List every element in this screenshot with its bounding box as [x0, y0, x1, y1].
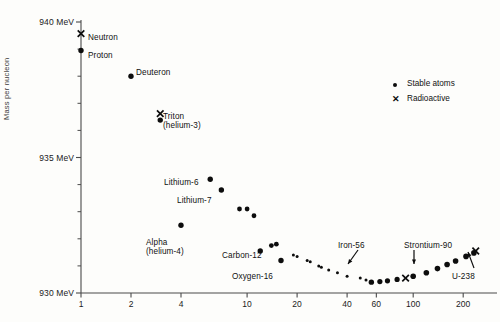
point-a27	[317, 264, 320, 267]
point-a35	[336, 271, 339, 274]
annotation-iron-56: Iron-56	[338, 241, 365, 251]
point-alpha	[178, 223, 183, 228]
point-a52	[365, 278, 368, 281]
point-a20	[296, 255, 299, 258]
point-a23	[306, 259, 309, 262]
point-a14	[269, 243, 274, 248]
annotation-proton: Proton	[88, 51, 113, 61]
point-a19	[292, 254, 295, 257]
point-a180	[453, 258, 459, 264]
y-axis-title: Mass per nucleon	[2, 58, 11, 120]
y-tick-label: 940 MeV	[18, 17, 74, 27]
x-tick-label: 60	[356, 299, 396, 309]
point-a232	[471, 250, 477, 256]
x-tick-label: 1	[61, 299, 101, 309]
point-lithium-7	[219, 187, 224, 192]
y-tick-label: 935 MeV	[18, 153, 74, 163]
point-a10	[245, 207, 250, 212]
x-tick-label: 2	[111, 299, 151, 309]
x-tick-label: 200	[443, 299, 483, 309]
legend-label-radioactive: Radioactive	[407, 94, 450, 103]
point-iron-56	[369, 279, 374, 284]
annotation-deuteron: Deuteron	[136, 68, 170, 78]
point-a11	[252, 213, 257, 218]
point-a100	[410, 273, 416, 279]
point-a80	[394, 277, 399, 282]
x-tick-label: 100	[393, 299, 433, 309]
caption-edge	[33, 312, 243, 318]
point-a40	[346, 275, 349, 278]
point-a28	[320, 266, 323, 269]
point-a70	[385, 278, 390, 283]
point-proton	[78, 48, 83, 53]
point-lithium-6	[208, 176, 213, 181]
point-a24	[309, 260, 312, 263]
point-a160	[444, 262, 450, 268]
annotation-carbon-12: Carbon-12	[222, 251, 262, 261]
strontium-90-arrow-head	[412, 259, 416, 264]
axes	[76, 20, 497, 298]
legend-label-stable: Stable atoms	[407, 79, 455, 88]
point-oxygen-16	[278, 258, 283, 263]
point-a15	[274, 242, 279, 247]
point-deuteron	[128, 74, 133, 79]
x-tick-label: 4	[161, 299, 201, 309]
legend-x-icon: ✕	[392, 95, 400, 104]
point-a63	[377, 279, 382, 284]
annotation-helium-4: (helium-4)	[146, 247, 184, 257]
u-238-arrow-head	[468, 252, 472, 257]
binding-energy-chart: Mass per nucleon 940 MeV935 MeV930 MeV 1…	[0, 0, 500, 322]
point-a48	[359, 277, 362, 280]
annotation-neutron: Neutron	[88, 33, 118, 43]
point-a31	[327, 268, 330, 271]
annotation-helium-3: (helium-3)	[163, 121, 201, 131]
point-a9	[237, 207, 242, 212]
point-strontium-90	[402, 275, 409, 282]
point-a120	[424, 270, 430, 276]
annotation-u-238: U-238	[452, 272, 475, 282]
annotation-lithium-7: Lithium-7	[177, 196, 212, 206]
y-tick-label: 930 MeV	[18, 288, 74, 298]
annotation-oxygen-16: Oxygen-16	[232, 272, 273, 282]
annotation-lithium-6: Lithium-6	[164, 178, 199, 188]
x-tick-label: 10	[227, 299, 267, 309]
annotation-strontium-90: Strontium-90	[404, 241, 452, 251]
x-tick-label: 20	[277, 299, 317, 309]
point-a140	[435, 266, 441, 272]
